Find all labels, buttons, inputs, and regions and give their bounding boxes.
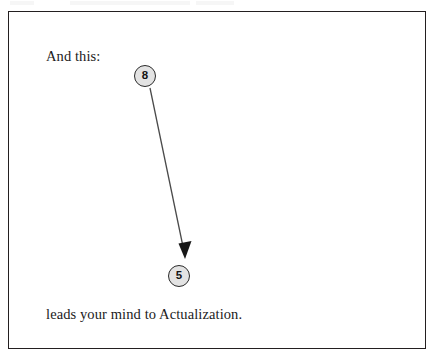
caption-top: And this: xyxy=(46,48,100,64)
scan-artifact xyxy=(196,1,234,5)
node-label: 8 xyxy=(142,70,148,82)
scan-artifact xyxy=(70,1,190,5)
scan-artifact xyxy=(10,1,34,5)
figure-page: And this: 8 5 leads your mind to Actuali… xyxy=(0,0,436,361)
caption-bottom: leads your mind to Actualization. xyxy=(46,306,242,322)
node-label: 5 xyxy=(176,270,182,282)
node-circle-5[interactable]: 5 xyxy=(168,265,190,287)
node-circle-8[interactable]: 8 xyxy=(134,65,156,87)
